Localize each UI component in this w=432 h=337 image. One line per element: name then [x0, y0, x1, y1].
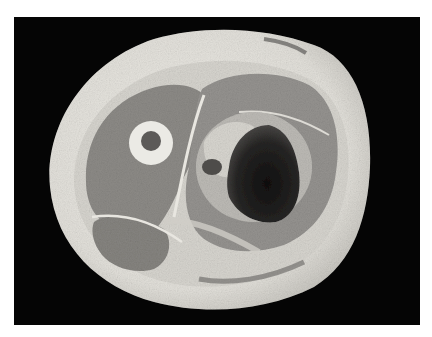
- thigh-cross-section: [14, 17, 420, 325]
- specimen-photo: Grayscale photograph of a transverse cro…: [14, 17, 420, 325]
- small-dark-spot: [202, 159, 222, 175]
- femur-marrow-cavity: [141, 131, 161, 151]
